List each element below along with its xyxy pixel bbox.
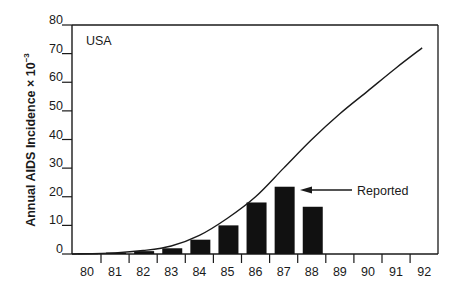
reported-label: Reported bbox=[357, 184, 408, 198]
y-tick-label: 80 bbox=[49, 13, 63, 27]
y-axis-label: Annual AIDS Incidence × 10−3 bbox=[22, 53, 37, 227]
x-tick-label: 91 bbox=[389, 265, 403, 279]
y-tick-label: 50 bbox=[49, 99, 63, 113]
reported-annotation: Reported bbox=[300, 184, 408, 198]
x-tick-label: 83 bbox=[164, 265, 178, 279]
x-tick-label: 90 bbox=[361, 265, 375, 279]
y-axis: 01020304050607080 bbox=[49, 13, 72, 256]
bar bbox=[275, 187, 295, 254]
bar bbox=[190, 240, 210, 254]
bar bbox=[162, 248, 182, 254]
bar bbox=[303, 207, 323, 254]
x-tick-label: 84 bbox=[192, 265, 206, 279]
x-tick-label: 82 bbox=[136, 265, 150, 279]
bar bbox=[218, 225, 238, 254]
y-tick-label: 60 bbox=[49, 70, 63, 84]
x-tick-label: 81 bbox=[108, 265, 122, 279]
x-tick-label: 80 bbox=[80, 265, 94, 279]
reported-bars bbox=[78, 187, 323, 254]
y-tick-label: 0 bbox=[56, 242, 63, 256]
x-axis: 80818283848586878889909192 bbox=[80, 254, 431, 279]
x-tick-label: 89 bbox=[333, 265, 347, 279]
x-tick-label: 88 bbox=[305, 265, 319, 279]
x-tick-label: 92 bbox=[417, 265, 431, 279]
y-tick-label: 20 bbox=[49, 185, 63, 199]
y-tick-label: 40 bbox=[49, 128, 63, 142]
arrow-left-icon bbox=[300, 187, 312, 194]
y-tick-label: 70 bbox=[49, 42, 63, 56]
y-tick-label: 10 bbox=[49, 213, 63, 227]
x-tick-label: 86 bbox=[249, 265, 263, 279]
y-tick-label: 30 bbox=[49, 156, 63, 170]
y-axis-label-exponent: −3 bbox=[22, 53, 31, 62]
x-tick-label: 87 bbox=[277, 265, 291, 279]
y-axis-label-base: Annual AIDS Incidence × 10 bbox=[24, 62, 38, 227]
x-tick-label: 85 bbox=[220, 265, 234, 279]
region-label: USA bbox=[86, 34, 112, 48]
chart: 01020304050607080 8081828384858687888990… bbox=[0, 0, 459, 297]
bar bbox=[247, 202, 267, 254]
